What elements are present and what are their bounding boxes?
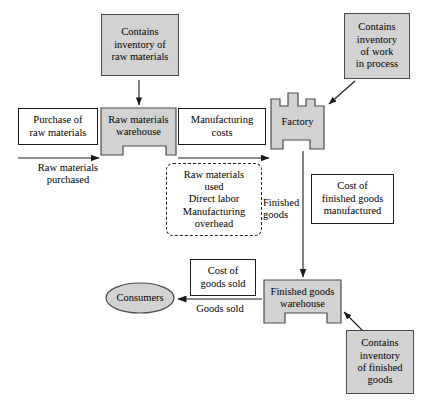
manufacturing-cost-components-label: Raw materials used Direct labor Manufact… bbox=[183, 169, 245, 231]
cost-of-finished-goods-manufactured-box[interactable]: Cost of finished goods manufactured bbox=[311, 174, 394, 224]
manufacturing-costs-label: Manufacturing costs bbox=[191, 114, 253, 139]
goods-sold-label: Goods sold bbox=[180, 303, 260, 315]
finished-goods-label: Finished goods bbox=[263, 197, 307, 222]
purchase-of-raw-materials-label: Purchase of raw materials bbox=[30, 114, 87, 139]
manufacturing-costs-box[interactable]: Manufacturing costs bbox=[178, 108, 266, 145]
contains-inventory-raw-materials-label: Contains inventory of raw materials bbox=[112, 26, 169, 63]
contains-inventory-work-in-process-box[interactable]: Contains inventory of work in process bbox=[344, 13, 410, 79]
contains-inventory-raw-materials-box[interactable]: Contains inventory of raw materials bbox=[101, 14, 179, 76]
manufacturing-cost-flow-diagram: Contains inventory of raw materials Cont… bbox=[0, 0, 427, 401]
manufacturing-cost-components-box[interactable]: Raw materials used Direct labor Manufact… bbox=[166, 163, 262, 236]
contains-inventory-finished-goods-box[interactable]: Contains inventory of finished goods bbox=[346, 330, 414, 394]
raw-materials-purchased-label: Raw materials purchased bbox=[18, 162, 118, 187]
contains-inventory-finished-goods-label: Contains inventory of finished goods bbox=[357, 337, 402, 387]
cost-of-goods-sold-box[interactable]: Cost of goods sold bbox=[190, 259, 256, 296]
cost-of-goods-sold-label: Cost of goods sold bbox=[200, 265, 245, 290]
consumers-shape bbox=[106, 283, 174, 313]
purchase-of-raw-materials-box[interactable]: Purchase of raw materials bbox=[18, 108, 98, 145]
cost-of-finished-goods-manufactured-label: Cost of finished goods manufactured bbox=[322, 180, 384, 217]
finished-goods-warehouse-shape bbox=[264, 280, 341, 323]
arrow-inventory-wip-to-factory bbox=[329, 81, 355, 104]
contains-inventory-work-in-process-label: Contains inventory of work in process bbox=[356, 21, 398, 71]
factory-shape bbox=[271, 93, 324, 149]
raw-materials-warehouse-shape bbox=[101, 108, 176, 155]
